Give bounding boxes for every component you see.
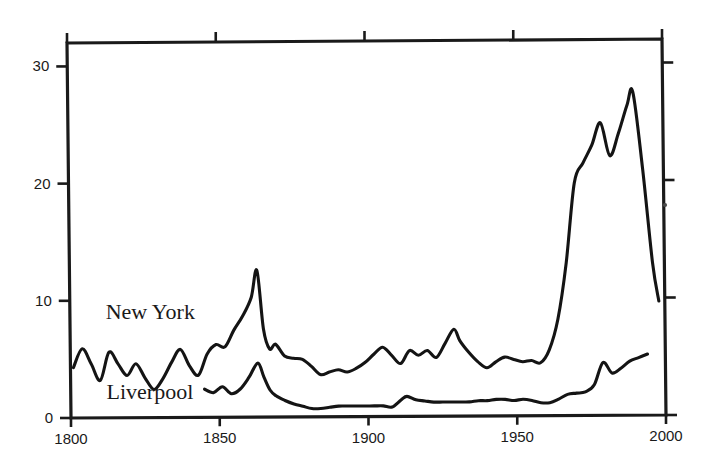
x-tick-label: 1850 [203,429,236,446]
y-tick-label: 30 [33,57,50,74]
x-tick-label: 1950 [501,428,534,445]
series-annotation-liverpool: Liverpool [107,379,194,404]
series-annotation-new-york: New York [106,299,195,324]
x-tick-label: 1900 [352,429,385,446]
x-tick-label: 1800 [54,430,87,447]
line-chart: 18001850190019502000 0102030 New YorkLiv… [0,0,708,468]
y-tick-label: 20 [34,175,51,192]
scan-speck [663,203,667,207]
x-tick-label: 2000 [649,427,682,444]
y-tick-label: 10 [35,292,52,309]
y-tick-label: 0 [45,409,53,426]
